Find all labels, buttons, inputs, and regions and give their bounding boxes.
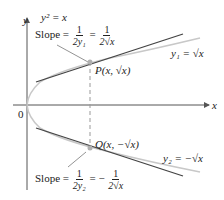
point-p bbox=[88, 60, 93, 65]
upper-slope-annotation: Slope = 12y₁ = 12√x bbox=[35, 24, 115, 47]
upper-slope-leader bbox=[57, 45, 88, 62]
point-q-label: Q(x, −√x) bbox=[95, 139, 139, 150]
equation-label: y² = x bbox=[41, 12, 67, 23]
lower-slope-leader bbox=[68, 152, 86, 167]
lower-curve-label: y₂ = −√x bbox=[163, 153, 203, 164]
x-axis-label: x bbox=[212, 100, 217, 111]
lower-slope-annotation: Slope = 12y₂ = − 12√x bbox=[35, 168, 124, 191]
origin-label: 0 bbox=[18, 109, 24, 120]
y-axis-label: y bbox=[23, 15, 28, 26]
point-p-label: P(x, √x) bbox=[95, 65, 130, 76]
point-q bbox=[88, 146, 93, 151]
upper-curve-label: y₁ = √x bbox=[171, 48, 204, 59]
